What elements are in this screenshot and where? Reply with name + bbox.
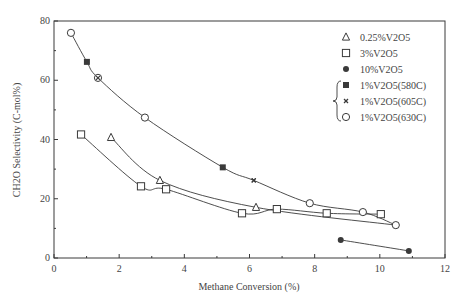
y-tick-label: 0 <box>45 252 50 263</box>
square-marker-icon <box>238 210 245 217</box>
square-marker-icon <box>377 211 384 218</box>
filled-circle-marker-icon <box>406 248 412 254</box>
x-tick-label: 2 <box>117 263 122 274</box>
y-tick-label: 60 <box>40 74 50 85</box>
x-tick-label: 0 <box>52 263 57 274</box>
cross-marker-icon <box>344 99 348 103</box>
legend-label: 10%V2O5 <box>360 64 403 75</box>
x-tick-label: 4 <box>182 263 187 274</box>
filled-square-marker-icon <box>343 82 349 88</box>
filled-circle-marker-icon <box>338 237 344 243</box>
circle-marker-icon <box>306 200 313 207</box>
triangle-marker-icon <box>156 176 163 183</box>
trend-lines <box>71 33 409 251</box>
x-tick-label: 6 <box>247 263 252 274</box>
data-points <box>67 29 411 254</box>
trend-line <box>71 33 396 225</box>
x-tick-label: 10 <box>375 263 385 274</box>
y-axis-label: CH2O Selectivity (C-mol%) <box>11 83 23 197</box>
legend: 0.25%V2O53%V2O510%V2O51%V2O5(580C)1%V2O5… <box>333 32 426 124</box>
square-marker-icon <box>137 183 144 190</box>
triangle-marker-icon <box>342 33 349 40</box>
circle-marker-icon <box>141 114 148 121</box>
square-marker-icon <box>162 186 169 193</box>
square-marker-icon <box>273 206 280 213</box>
x-axis: 024681012 <box>52 254 451 274</box>
y-tick-label: 80 <box>40 15 50 26</box>
x-axis-label: Methane Conversion (%) <box>198 281 299 293</box>
legend-label: 1%V2O5(630C) <box>360 112 426 124</box>
legend-label: 3%V2O5 <box>360 48 398 59</box>
y-tick-label: 40 <box>40 134 50 145</box>
legend-label: 0.25%V2O5 <box>360 32 410 43</box>
filled-square-marker-icon <box>84 59 90 65</box>
square-marker-icon <box>342 49 349 56</box>
x-tick-label: 12 <box>440 263 450 274</box>
legend-label: 1%V2O5(605C) <box>360 96 426 108</box>
circle-marker-icon <box>359 208 366 215</box>
square-marker-icon <box>323 210 330 217</box>
circle-marker-icon <box>392 222 399 229</box>
circle-marker-icon <box>67 29 74 36</box>
circle-marker-icon <box>342 113 349 120</box>
filled-circle-marker-icon <box>343 66 349 72</box>
legend-label: 1%V2O5(580C) <box>360 80 426 92</box>
x-tick-label: 8 <box>312 263 317 274</box>
y-axis: 020406080 <box>40 15 58 263</box>
trend-line <box>341 240 409 251</box>
y-tick-label: 20 <box>40 193 50 204</box>
cross-marker-icon <box>252 178 256 182</box>
triangle-marker-icon <box>107 133 114 140</box>
filled-square-marker-icon <box>220 164 226 170</box>
chart: 024681012 020406080 Methane Conversion (… <box>0 0 466 308</box>
legend-brace <box>333 81 341 121</box>
square-marker-icon <box>77 131 84 138</box>
